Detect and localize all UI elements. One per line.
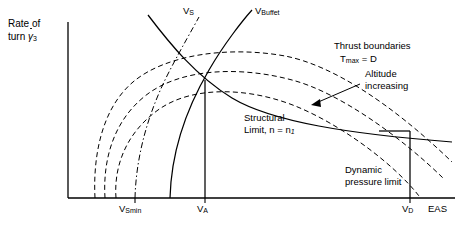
vd-subscript: D [408, 207, 413, 214]
gamma-subscript: 3 [33, 35, 37, 42]
vs-stall-curve [135, 17, 199, 198]
x-tick-label-vsmin: VSmin [119, 203, 141, 217]
load-factor-limit-subscript: 1 [291, 128, 295, 135]
structural-limit-label: Structural Limit, n = n1 [244, 112, 295, 137]
structural-limit-line2: Limit, n = n1 [244, 124, 295, 138]
gamma-dot-symbol: γ [28, 31, 33, 44]
dynamic-pressure-line2: pressure limit [345, 176, 402, 188]
y-axis-label-line1: Rate of [8, 18, 40, 31]
structural-limit-prefix: Limit, [244, 124, 269, 135]
drag-symbol: D [370, 53, 377, 64]
altitude-increasing-line2: increasing [365, 80, 408, 92]
turn-rate-envelope-figure: Rate of turn γ3 VS VBuffet Thrust bounda… [0, 0, 462, 228]
tmax-subscript: max [346, 57, 359, 64]
tmax-equals: = [359, 53, 370, 64]
x-axis-label: EAS [428, 203, 447, 215]
y-axis-label: Rate of turn γ3 [8, 18, 40, 45]
y-axis-label-line2: turn γ3 [8, 31, 40, 46]
x-tick-label-vd: VD [402, 203, 413, 217]
vsmin-subscript: Smin [125, 207, 141, 214]
thrust-equation-label: Tmax = D [340, 53, 377, 67]
altitude-increasing-label: Altitude increasing [365, 68, 408, 91]
structural-limit-line1: Structural [244, 112, 295, 124]
va-subscript: A [203, 207, 208, 214]
altitude-increasing-line1: Altitude [365, 68, 408, 80]
altitude-increasing-arrow [311, 84, 360, 107]
dynamic-pressure-line1: Dynamic [345, 164, 402, 176]
chart-canvas [0, 0, 462, 228]
altitude-arrow-shaft [316, 84, 360, 103]
load-factor-equals: = [275, 124, 286, 135]
altitude-arrow-head [311, 99, 321, 107]
thrust-boundaries-label: Thrust boundaries [334, 40, 411, 52]
dynamic-pressure-limit-label: Dynamic pressure limit [345, 164, 402, 187]
stall-speed-label: VS [183, 5, 194, 19]
buffet-speed-label: VBuffet [255, 5, 280, 19]
x-tick-label-va: VA [197, 203, 208, 217]
vs-subscript: S [189, 9, 194, 16]
vbuffet-subscript: Buffet [261, 9, 279, 16]
x-axis-ticks [135, 198, 410, 203]
y-axis-label-turn-word: turn [8, 31, 28, 42]
vbuffet-curve [170, 10, 252, 198]
